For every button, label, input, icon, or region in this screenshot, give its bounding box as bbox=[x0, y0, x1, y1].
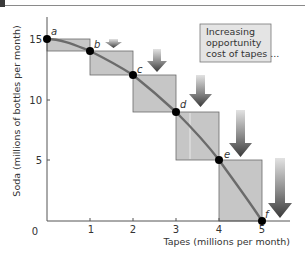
annotation-line-2: opportunity bbox=[206, 37, 262, 48]
down-arrow-icon-2 bbox=[147, 49, 167, 72]
down-arrow-icon-4 bbox=[229, 110, 252, 157]
x-tick-2: 2 bbox=[130, 224, 136, 235]
point-b bbox=[86, 47, 94, 55]
x-tick-3: 3 bbox=[173, 224, 179, 235]
down-arrow-icon-5 bbox=[268, 158, 292, 218]
point-label-f: f bbox=[265, 209, 270, 220]
x-tick-0: 0 bbox=[32, 226, 38, 237]
x-axis-title: Tapes (millions per month) bbox=[162, 236, 290, 247]
point-e bbox=[215, 156, 223, 164]
point-label-e: e bbox=[224, 149, 230, 160]
y-tick-10: 10 bbox=[29, 95, 42, 106]
annotation-box: Increasing opportunity cost of tapes ... bbox=[200, 24, 279, 62]
y-axis-title: Soda (millions of bottles per month) bbox=[11, 25, 22, 196]
point-label-d: d bbox=[180, 99, 187, 110]
down-arrow-icon-1 bbox=[105, 39, 122, 48]
ppf-chart: 0 1 2 3 4 5 15 10 5 Tapes (millions per … bbox=[0, 0, 305, 256]
point-label-c: c bbox=[137, 64, 143, 75]
point-a bbox=[43, 35, 51, 43]
point-d bbox=[172, 108, 180, 116]
point-label-a: a bbox=[51, 26, 57, 37]
annotation-line-1: Increasing bbox=[206, 26, 255, 37]
y-tick-5: 5 bbox=[36, 155, 42, 166]
x-tick-1: 1 bbox=[88, 224, 94, 235]
point-label-b: b bbox=[94, 39, 100, 50]
down-arrow-icon-3 bbox=[189, 75, 212, 107]
y-tick-15: 15 bbox=[29, 34, 42, 45]
annotation-line-3: cost of tapes ... bbox=[206, 48, 279, 59]
point-c bbox=[129, 71, 137, 79]
x-tick-5: 5 bbox=[259, 224, 265, 235]
x-tick-4: 4 bbox=[216, 224, 222, 235]
